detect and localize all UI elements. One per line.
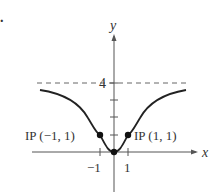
origin-point	[111, 149, 117, 155]
ip-left-label: IP (−1, 1)	[25, 128, 75, 143]
x-tick-label-1: 1	[124, 160, 131, 175]
y-axis-arrow-icon	[112, 34, 117, 41]
y-axis-label: y	[108, 18, 117, 33]
ip-right-label: IP (1, 1)	[134, 128, 177, 143]
graph: y x 4 −1 1 IP (−1, 1) IP (1, 1)	[0, 0, 224, 196]
y-tick-label-4: 4	[99, 76, 106, 91]
inflection-point-left	[97, 132, 103, 138]
x-axis-label: x	[201, 145, 209, 160]
x-tick-label-neg1: −1	[87, 160, 101, 175]
inflection-point-right	[125, 132, 131, 138]
x-axis-arrow-icon	[191, 150, 198, 155]
